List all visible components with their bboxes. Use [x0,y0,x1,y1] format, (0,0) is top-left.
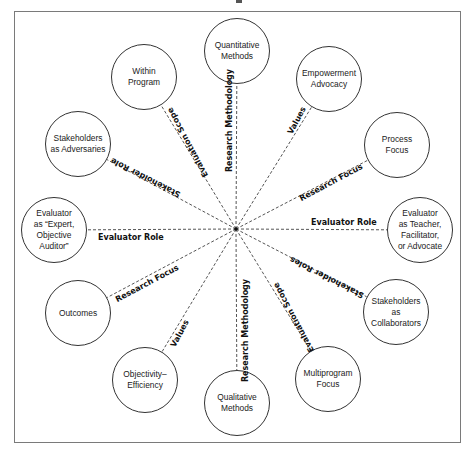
node-quantitative-methods: Quantitative Methods [204,18,270,84]
node-qualitative-methods: Qualitative Methods [204,370,270,436]
node-within-program: Within Program [111,44,177,110]
node-empowerment-advocacy: Empowerment Advocacy [296,46,362,112]
node-label: Within Program [128,66,160,88]
node-label: Qualitative Methods [217,392,257,414]
connector-evaluator-expert [87,229,236,230]
node-evaluator-teacher: Evaluator as Teacher, Facilitator, or Ad… [387,197,453,263]
node-stakeholders-as-collaborators: Stakeholders as Collaborators [363,279,429,345]
node-label: Evaluator as Teacher, Facilitator, or Ad… [398,208,442,252]
node-objectivity-efficiency: Objectivity– Efficiency [112,347,178,413]
node-label: Quantitative Methods [215,40,260,62]
connector-evaluator-teacher [236,229,387,230]
node-process-focus: Process Focus [364,112,430,178]
edge-label: Evaluator Role [311,218,377,227]
node-label: Multiprogram Focus [304,368,353,390]
connector-qualitative-methods [236,229,237,370]
connector-objectivity-efficiency [162,229,236,352]
connector-empowerment-advocacy [236,107,312,229]
node-label: Empowerment Advocacy [302,68,356,90]
node-outcomes: Outcomes [45,280,111,346]
node-label: Evaluator as “Expert, Objective Auditor” [34,208,75,252]
node-label: Process Focus [382,134,412,156]
edge-label: Research Methodology [225,68,234,171]
hub-dot [234,227,238,231]
node-evaluator-expert: Evaluator as “Expert, Objective Auditor” [21,197,87,263]
node-label: Objectivity– Efficiency [123,369,166,391]
connector-quantitative-methods [236,84,237,229]
node-label: Outcomes [59,308,97,319]
edge-label: Evaluator Role [98,233,164,242]
node-label: Stakeholders as Adversaries [51,133,106,155]
edge-label: Research Methodology [241,278,250,381]
node-multiprogram-focus: Multiprogram Focus [295,346,361,412]
node-label: Stakeholders as Collaborators [371,296,421,329]
node-stakeholders-as-adversaries: Stakeholders as Adversaries [45,111,111,177]
